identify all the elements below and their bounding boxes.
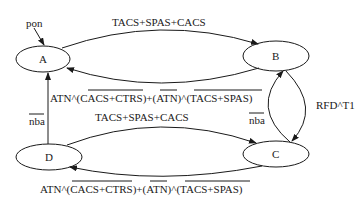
edge-c-to-d-label: ATN^(CACS+CTRS)+(ATN)^(TACS+SPAS) [40, 183, 243, 195]
node-b-label: B [272, 50, 279, 62]
edge-a-to-b [62, 30, 258, 48]
node-c-label: C [272, 148, 279, 160]
edge-b-to-c-label: RFD^T1 [316, 99, 355, 111]
ba-part-3: +( [146, 92, 156, 104]
edge-c-to-b [268, 71, 290, 142]
ba-part-5: )^( [178, 92, 191, 104]
cd-part-3: +( [136, 183, 146, 195]
ba-part-1: ATN^( [50, 92, 80, 104]
edge-d-to-c-label: TACS+SPAS+CACS [95, 111, 189, 123]
edge-b-to-a-label: ATN^(CACS+CTRS)+(ATN)^(TACS+SPAS) [50, 92, 253, 104]
ba-part-6: TACS+SPAS) [190, 92, 252, 104]
edge-c-to-d [70, 166, 262, 176]
cd-part-4: ATN [146, 183, 167, 195]
node-d-label: D [45, 151, 53, 163]
ba-part-4: ATN [156, 92, 177, 104]
edge-c-to-b-label: nba [249, 114, 265, 126]
node-a-label: A [39, 53, 47, 65]
cd-part-2: CACS+CTRS) [70, 183, 136, 195]
ba-part-2: CACS+CTRS) [80, 92, 146, 104]
edge-d-to-a-label: nba [29, 115, 45, 127]
pon-entry-arrow [34, 28, 44, 45]
edge-d-to-c [67, 127, 256, 145]
cd-part-5: )^( [168, 183, 181, 195]
pon-label: pon [26, 17, 43, 29]
cd-part-1: ATN^( [40, 183, 70, 195]
edge-b-to-a [67, 68, 259, 83]
edge-b-to-c [286, 71, 306, 141]
cd-part-6: TACS+SPAS) [180, 183, 242, 195]
edge-a-to-b-label: TACS+SPAS+CACS [112, 16, 206, 28]
